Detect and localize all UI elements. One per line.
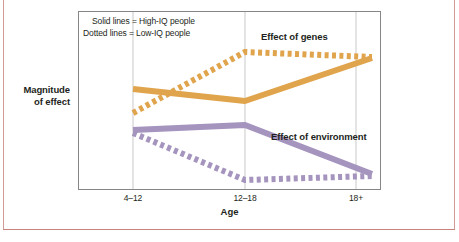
x-tick-label-12-18: 12–18	[215, 193, 275, 203]
legend-solid-lines: Solid lines = High-IQ people	[92, 16, 195, 26]
x-tick-label-18-plus: 18+	[326, 193, 386, 203]
y-axis-label: Magnitude of effect	[6, 84, 70, 108]
y-axis-label-line-1: Magnitude	[6, 84, 70, 96]
y-axis-label-line-2: of effect	[6, 96, 70, 108]
x-tick-label-4-12: 4–12	[103, 193, 163, 203]
figure-container: Solid lines = High-IQ people Dotted line…	[0, 0, 459, 242]
annotation-effect-of-environment: Effect of environment	[271, 131, 367, 142]
annotation-effect-of-genes: Effect of genes	[261, 31, 328, 42]
x-axis-label: Age	[0, 206, 459, 217]
legend-dotted-lines: Dotted lines = Low-IQ people	[83, 28, 190, 38]
